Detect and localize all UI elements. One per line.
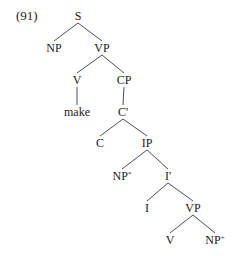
node-label: IP [142,136,153,150]
node-superscript: + [221,234,225,242]
tree-node-c: C [96,136,104,150]
tree-node-np1: NP [46,41,61,55]
tree-node-ibar: I' [165,169,171,183]
tree-edge [193,215,215,233]
node-label: C' [118,105,128,119]
tree-node-vp2: VP [185,201,200,215]
tree-node-s: S [75,9,82,23]
node-label: make [64,105,90,119]
node-label: CP [117,73,132,87]
node-label: VP [185,201,200,215]
tree-node-cp: CP [117,73,132,87]
tree-node-i: I [145,201,149,215]
tree-node-cbar: C' [118,105,128,119]
node-superscript: * [128,170,132,178]
tree-edge [170,215,193,233]
tree-edge [147,150,168,169]
node-label: I [145,201,149,215]
node-label: C [96,136,104,150]
tree-edge [54,23,78,41]
tree-edge [77,55,102,73]
node-label: VP [94,41,109,55]
node-label: V [73,73,82,87]
syntax-tree-diagram: (91) SNPVPVCPmakeC'CIPNP*I'IVPVNP+ [0,0,237,256]
tree-edge [122,150,147,169]
tree-node-make: make [64,105,90,119]
tree-edge [123,119,147,136]
tree-edge [123,87,124,105]
node-label: NP [46,41,61,55]
tree-node-np2: NP* [113,169,132,183]
tree-node-vp1: VP [94,41,109,55]
node-label: S [75,9,82,23]
tree-edge [100,119,123,136]
tree-node-ip: IP [142,136,153,150]
tree-edge [168,183,193,201]
node-label: NP [113,169,128,183]
tree-edges [0,0,237,256]
tree-node-v1: V [73,73,82,87]
node-label: V [166,233,175,247]
node-label: I' [165,169,171,183]
node-label: NP [205,233,220,247]
tree-node-np3: NP+ [205,233,224,247]
tree-node-v2: V [166,233,175,247]
tree-edge [78,23,102,41]
tree-edge [102,55,124,73]
tree-edge [147,183,168,201]
